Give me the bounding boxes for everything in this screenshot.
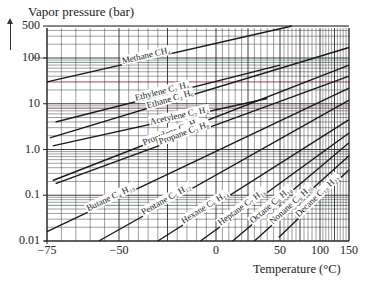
y-tick-label: 10 — [0, 96, 40, 111]
x-tick-label: 100 — [311, 243, 329, 258]
chart-title: Vapor pressure (bar) — [28, 4, 134, 20]
y-tick-label: 0.1 — [0, 187, 40, 202]
y-tick-label: 1.0 — [0, 142, 40, 157]
x-tick-label: −50 — [110, 243, 129, 258]
x-tick-label: 0 — [213, 243, 219, 258]
x-tick-label: 150 — [340, 243, 358, 258]
y-tick-label: 100 — [0, 50, 40, 65]
y-tick-label: 500 — [0, 18, 40, 33]
x-tick-label: 50 — [274, 243, 286, 258]
y-tick-label: 0.01 — [0, 233, 40, 248]
x-axis-label: Temperature (°C) — [253, 262, 341, 277]
x-tick-label: −75 — [38, 243, 57, 258]
